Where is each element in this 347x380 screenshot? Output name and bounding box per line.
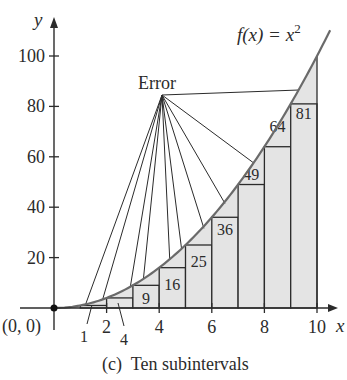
rectangle (238, 185, 264, 308)
origin-point (51, 305, 58, 312)
x-axis-label: x (335, 315, 345, 336)
y-tick-label: 60 (27, 147, 45, 167)
bar-label: 25 (191, 253, 207, 270)
y-tick-label: 80 (27, 96, 45, 116)
x-axis-arrow-icon (328, 304, 338, 312)
rectangle (291, 104, 317, 308)
y-tick-label: 20 (27, 248, 45, 268)
error-label: Error (138, 73, 176, 93)
bar-label-1: 1 (80, 328, 88, 345)
error-pointer-line (162, 95, 254, 163)
caption: (c) Ten subintervals (102, 354, 249, 375)
origin-label: (0, 0) (2, 316, 41, 337)
x-tick-label: 4 (155, 317, 164, 337)
y-axis-arrow-icon (50, 17, 58, 28)
error-pointer-line (143, 95, 162, 279)
error-pointer-line (162, 95, 204, 228)
x-tick-label: 10 (308, 317, 326, 337)
function-label: f(x) = x2 (237, 21, 301, 46)
y-tick-label: 40 (27, 197, 45, 217)
bar-label: 36 (217, 221, 233, 238)
rectangle (264, 147, 290, 308)
error-pointer-line (162, 90, 299, 95)
riemann-sum-diagram: 9162536496481 20406080100 246810 y x (0,… (0, 0, 347, 380)
function-label-exponent: 2 (294, 21, 301, 36)
x-tick-label: 8 (260, 317, 269, 337)
error-pointer-line (130, 95, 162, 287)
y-axis-label: y (32, 9, 43, 30)
bar-label: 81 (296, 105, 312, 122)
y-ticks: 20406080100 (18, 46, 59, 268)
bar-label-4: 4 (120, 331, 128, 348)
error-pointer-line (162, 95, 182, 249)
bar-label: 16 (164, 276, 180, 293)
error-pointer-line (103, 95, 162, 299)
x-tick-label: 2 (102, 317, 111, 337)
rectangle (107, 298, 133, 308)
bar-label: 9 (142, 290, 150, 307)
error-pointer-line (162, 95, 225, 203)
x-tick-label: 6 (207, 317, 216, 337)
error-pointer-line (162, 95, 170, 259)
y-tick-label: 100 (18, 46, 45, 66)
function-label-base: f(x) = x (237, 24, 295, 46)
